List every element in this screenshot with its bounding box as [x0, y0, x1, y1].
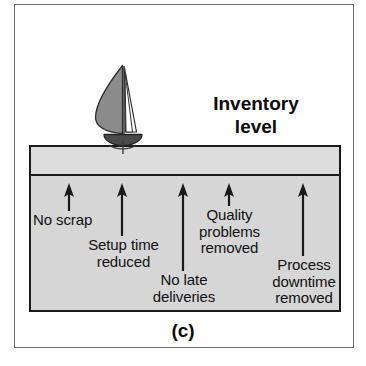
arrow-no-scrap: [62, 183, 76, 211]
arrow-label-no-late-deliveries: No late deliveries: [143, 272, 225, 305]
arrow-quality-problems-removed: [222, 183, 236, 206]
arrow-label-quality-problems-removed: Quality problems removed: [188, 207, 271, 257]
arrow-label-no-scrap: No scrap: [33, 212, 128, 229]
figure-root: Inventory level No scrapSetup time reduc…: [0, 0, 366, 366]
figure-caption: (c): [0, 320, 366, 342]
arrow-label-process-downtime-removed: Process downtime removed: [262, 257, 346, 307]
arrow-setup-time-reduced: [115, 183, 129, 236]
water-surface-band: [31, 147, 339, 176]
arrow-label-setup-time-reduced: Setup time reduced: [72, 237, 175, 270]
mainsail-shape: [95, 66, 122, 134]
inventory-level-title: Inventory level: [186, 92, 326, 138]
arrow-process-downtime-removed: [296, 183, 310, 256]
sailboat-illustration: [84, 62, 146, 154]
